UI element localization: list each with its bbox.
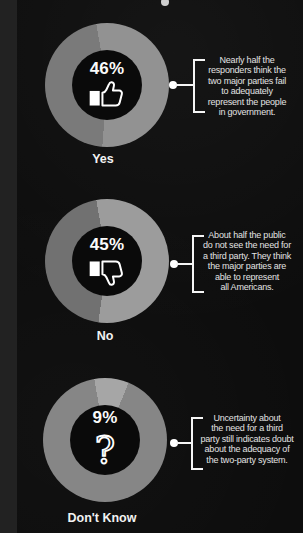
donut-chart-no: 45% bbox=[45, 199, 169, 323]
percent-value-yes: 46% bbox=[90, 60, 125, 78]
svg-text:?: ? bbox=[95, 429, 115, 471]
cropped-text-remnant bbox=[161, 0, 169, 6]
annotation-yes: Nearly half the responders think the two… bbox=[195, 55, 299, 117]
percent-value-no: 45% bbox=[90, 236, 125, 254]
donut-label-no: No bbox=[97, 329, 114, 343]
donut-hole-no: 45% bbox=[72, 226, 142, 296]
annotation-dont-know: Uncertainty about the need for a third p… bbox=[193, 413, 301, 465]
thumbs-up-icon bbox=[88, 80, 126, 111]
thumbs-down-icon bbox=[88, 256, 126, 287]
donut-label-dont-know: Don't Know bbox=[68, 511, 137, 525]
percent-value-dont-know: 9% bbox=[93, 409, 118, 427]
callout-connector-yes bbox=[175, 84, 194, 86]
question-mark-icon: ? bbox=[90, 429, 120, 471]
donut-chart-yes: 46% bbox=[45, 23, 169, 147]
donut-label-yes: Yes bbox=[92, 152, 114, 166]
donut-chart-dont-know: 9% ? bbox=[43, 378, 167, 502]
donut-hole-dont-know: 9% ? bbox=[70, 405, 140, 475]
callout-tick-bottom-dont-know bbox=[191, 468, 203, 470]
donut-hole-yes: 46% bbox=[72, 50, 142, 120]
annotation-no: About half the public do not see the nee… bbox=[194, 230, 300, 292]
infographic-canvas: 46% Yes Nearly half the responders think… bbox=[17, 0, 303, 533]
